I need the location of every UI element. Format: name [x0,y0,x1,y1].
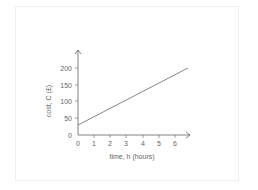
svg-text:4: 4 [141,140,145,147]
svg-text:0: 0 [76,140,80,147]
y-axis-label: cost, C (£) [45,85,53,117]
svg-text:3: 3 [124,140,128,147]
svg-text:200: 200 [60,65,72,72]
y-ticks: 0 50 100 150 200 [60,65,78,139]
x-axis-label: time, h (hours) [109,153,154,161]
svg-text:0: 0 [68,132,72,139]
svg-text:100: 100 [60,98,72,105]
line-chart: 0 1 2 3 4 5 6 0 50 100 150 200 time, h (… [0,0,258,190]
svg-text:6: 6 [173,140,177,147]
svg-text:2: 2 [108,140,112,147]
svg-text:150: 150 [60,82,72,89]
svg-text:5: 5 [157,140,161,147]
svg-text:1: 1 [92,140,96,147]
x-ticks: 0 1 2 3 4 5 6 [76,135,177,147]
cost-line [78,68,188,125]
svg-text:50: 50 [64,115,72,122]
